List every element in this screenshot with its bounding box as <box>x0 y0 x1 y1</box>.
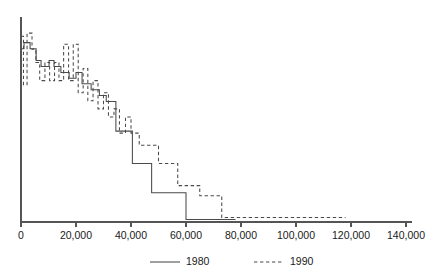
x-tick-label: 0 <box>18 229 24 241</box>
x-tick-label: 60,000 <box>170 229 202 241</box>
x-axis-ticks: 020,00040,00060,00080,000100,000120,0001… <box>18 222 425 241</box>
x-tick-label: 20,000 <box>60 229 92 241</box>
axes-group <box>21 17 412 222</box>
x-tick-label: 80,000 <box>225 229 257 241</box>
chart-container: 020,00040,00060,00080,000100,000120,0001… <box>0 0 435 279</box>
chart-legend: 19801990 <box>150 255 314 267</box>
step-chart-svg: 020,00040,00060,00080,000100,000120,0001… <box>0 0 435 279</box>
series-line-1990 <box>21 33 346 217</box>
x-tick-label: 120,000 <box>332 229 370 241</box>
legend-label-1980: 1980 <box>186 255 210 267</box>
legend-label-1990: 1990 <box>290 255 314 267</box>
x-tick-label: 140,000 <box>387 229 425 241</box>
x-tick-label: 100,000 <box>277 229 315 241</box>
x-tick-label: 40,000 <box>115 229 147 241</box>
series-line-1980 <box>21 43 236 220</box>
data-series-group <box>21 33 346 219</box>
